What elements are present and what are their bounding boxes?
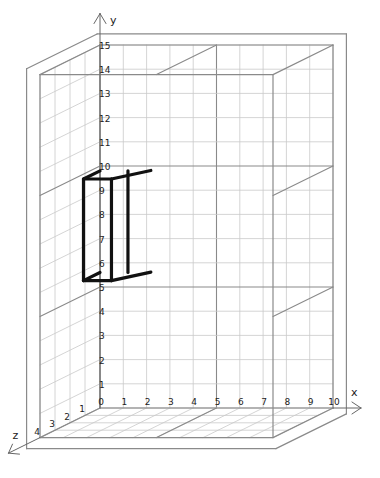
y-tick-label: 4: [99, 307, 105, 317]
z-axis-label: z: [13, 429, 19, 442]
diagram-canvas: 0123456789101234567891011121314151234 x …: [0, 0, 380, 478]
frame-edge: [273, 45, 333, 75]
y-tick-label: 15: [99, 41, 110, 51]
y-tick-label: 14: [99, 65, 111, 75]
bounding-box-frame: [27, 34, 347, 449]
grid-line: [157, 45, 217, 75]
y-tick-label: 2: [99, 356, 105, 366]
y-axis-label: y: [110, 14, 117, 27]
z-arrow-head: [9, 453, 20, 454]
x-tick-label: 0: [98, 397, 104, 407]
y-tick-label: 5: [99, 283, 105, 293]
y-tick-label: 12: [99, 114, 110, 124]
y-tick-label: 11: [99, 138, 110, 148]
y-tick-label: 3: [99, 331, 105, 341]
x-tick-label: 10: [328, 397, 340, 407]
y-tick-label: 7: [99, 235, 105, 245]
x-tick-label: 4: [191, 397, 197, 407]
y-tick-label: 13: [99, 89, 110, 99]
z-tick-label: 1: [79, 404, 85, 414]
x-tick-label: 1: [121, 397, 127, 407]
object-edge: [111, 170, 150, 179]
x-tick-label: 3: [168, 397, 174, 407]
y-tick-label: 9: [99, 186, 105, 196]
z-tick-label: 4: [34, 427, 40, 437]
y-arrow-head: [94, 14, 100, 24]
x-tick-label: 7: [261, 397, 267, 407]
y-tick-label: 8: [99, 210, 105, 220]
grid-line: [273, 166, 333, 196]
x-tick-label: 5: [215, 397, 221, 407]
z-tick-label: 3: [49, 419, 55, 429]
object-edge: [111, 272, 150, 281]
y-tick-label: 1: [99, 380, 105, 390]
y-tick-label: 6: [99, 259, 105, 269]
x-arrow-head: [352, 408, 361, 414]
black-frame-object: [84, 170, 151, 280]
grid-line: [273, 287, 333, 317]
z-tick-label: 2: [64, 412, 70, 422]
x-tick-label: 9: [308, 397, 314, 407]
3d-grid-diagram: 0123456789101234567891011121314151234 x …: [0, 0, 380, 478]
x-arrow-head: [352, 402, 361, 408]
x-tick-label: 2: [145, 397, 151, 407]
x-axis-label: x: [351, 386, 358, 399]
y-arrow-head: [100, 14, 106, 24]
x-tick-label: 6: [238, 397, 244, 407]
x-tick-label: 8: [285, 397, 291, 407]
